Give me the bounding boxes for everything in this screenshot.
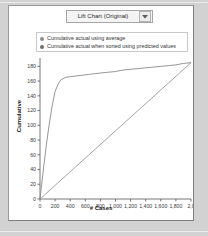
screenshot-root: Lift Chart (Original) Cumulative actual …: [0, 0, 208, 236]
legend-item: Cumulative actual using average: [40, 35, 184, 42]
background-band: [0, 2, 208, 3]
chevron-down-icon[interactable]: [139, 11, 151, 22]
y-tick-label: 60: [30, 152, 36, 158]
y-tick-label: 180: [27, 63, 36, 69]
y-tick-label: 0: [33, 196, 36, 202]
background-band: [0, 231, 208, 232]
y-tick-label: 120: [27, 107, 36, 113]
legend-item-label: Cumulative actual using average: [47, 35, 125, 42]
y-tick-label: 140: [27, 93, 36, 99]
lift-chart-svg: 02040608010012014016018002004006008001,0…: [9, 53, 193, 221]
legend-item-label: Cumulative actual when sorted using pred…: [47, 43, 176, 50]
chart-type-select[interactable]: Lift Chart (Original): [66, 10, 153, 23]
legend-marker-icon: [40, 45, 44, 49]
series-line: [40, 63, 191, 199]
y-tick-label: 20: [30, 181, 36, 187]
y-tick-label: 80: [30, 137, 36, 143]
y-tick-label: 160: [27, 78, 36, 84]
x-axis-title: # Cases: [9, 205, 193, 211]
y-axis-title: Cumulative: [16, 88, 22, 144]
y-tick-label: 40: [30, 166, 36, 172]
chart-type-select-label: Lift Chart (Original): [67, 11, 139, 22]
chart-panel: Lift Chart (Original) Cumulative actual …: [8, 5, 194, 221]
legend-item: Cumulative actual when sorted using pred…: [40, 43, 184, 50]
plot-area: 02040608010012014016018002004006008001,0…: [9, 53, 193, 221]
chart-legend: Cumulative actual using average Cumulati…: [36, 32, 188, 52]
y-tick-label: 100: [27, 122, 36, 128]
legend-marker-icon: [40, 37, 44, 41]
